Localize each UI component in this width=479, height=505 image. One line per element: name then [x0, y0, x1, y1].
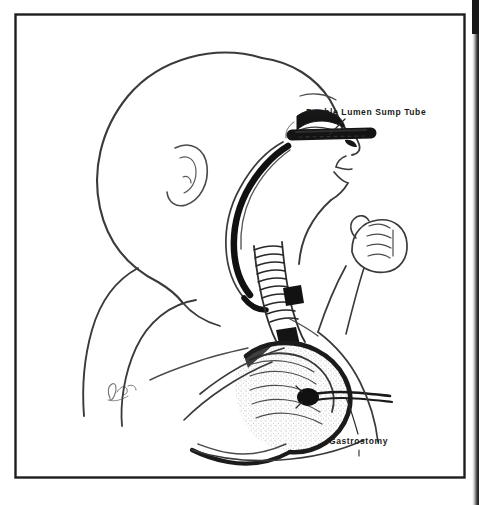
label-gastrostomy: Gastrostomy [329, 437, 388, 446]
double-lumen-sump-tube [292, 130, 371, 137]
page-edge-strip [472, 0, 479, 505]
page-edge-block [472, 0, 479, 34]
label-double-lumen-sump-tube: Double Lumen Sump Tube [306, 108, 426, 117]
medical-illustration-figure: Double Lumen Sump Tube Gastrostomy [0, 0, 479, 505]
illustration-canvas [0, 0, 479, 505]
